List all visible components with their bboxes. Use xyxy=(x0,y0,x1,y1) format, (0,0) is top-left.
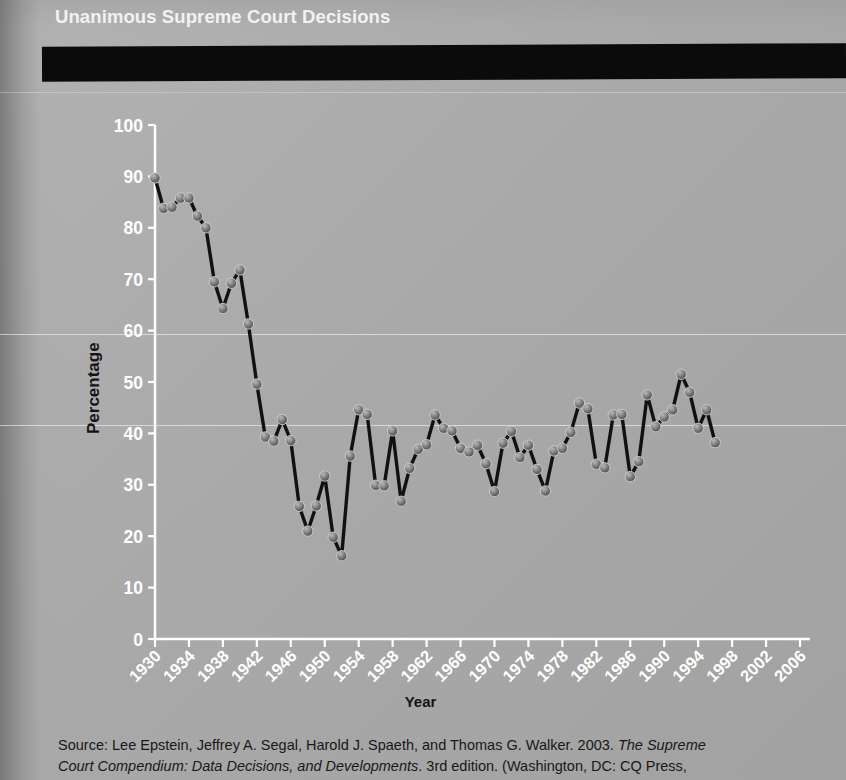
data-point-marker xyxy=(481,459,491,469)
x-axis-tick-label: 1994 xyxy=(669,646,708,685)
y-axis-tick-label: 40 xyxy=(124,424,144,444)
y-axis-title: Percentage xyxy=(84,342,104,434)
data-point-marker xyxy=(252,379,262,389)
y-axis-tick-label: 10 xyxy=(124,578,144,598)
x-axis-tick-label: 1966 xyxy=(431,646,470,685)
source-line1-italic: The Supreme xyxy=(618,737,706,753)
x-axis-tick-label: 1986 xyxy=(601,646,640,685)
data-point-marker xyxy=(506,426,516,436)
x-axis-tick-label: 1970 xyxy=(465,646,504,685)
source-line2-plain: . 3rd edition. (Washington, DC: CQ Press… xyxy=(418,758,687,774)
x-axis-tick-label: 1934 xyxy=(159,646,198,685)
data-point-marker xyxy=(328,532,338,542)
data-point-marker xyxy=(379,481,389,491)
data-point-marker xyxy=(167,202,177,212)
data-point-marker xyxy=(235,265,245,275)
data-point-marker xyxy=(523,440,533,450)
data-point-marker xyxy=(651,422,661,432)
x-axis-tick-label: 1938 xyxy=(193,646,232,685)
x-axis-tick-label: 1954 xyxy=(329,646,368,685)
data-point-marker xyxy=(387,426,397,436)
source-line1-plain: Source: Lee Epstein, Jeffrey A. Segal, H… xyxy=(58,737,618,753)
x-axis-tick-label: 1950 xyxy=(295,646,334,685)
x-axis-tick-label: 1982 xyxy=(567,646,606,685)
data-point-marker xyxy=(184,193,194,203)
y-axis-tick-label: 70 xyxy=(124,270,144,290)
data-point-marker xyxy=(498,438,508,448)
x-axis-title-text: Year xyxy=(405,693,437,710)
x-axis-tick-label: 1942 xyxy=(227,646,266,685)
data-point-marker xyxy=(566,427,576,437)
data-point-marker xyxy=(192,211,202,221)
data-point-marker xyxy=(320,471,330,481)
x-axis-tick-label: 2006 xyxy=(770,646,809,685)
y-axis-tick-label: 0 xyxy=(133,630,143,650)
data-point-marker xyxy=(710,437,720,447)
source-caption: Source: Lee Epstein, Jeffrey A. Segal, H… xyxy=(58,735,818,777)
source-line2-italic: Court Compendium: Data Decisions, and De… xyxy=(58,758,418,774)
x-axis-tick-label: 1978 xyxy=(533,646,572,685)
data-point-marker xyxy=(676,369,686,379)
data-point-marker xyxy=(642,390,652,400)
data-point-marker xyxy=(489,486,499,496)
y-axis-tick-label: 20 xyxy=(124,527,144,547)
chart-figure: 0102030405060708090100193019341938194219… xyxy=(0,0,846,780)
data-point-marker xyxy=(659,412,669,422)
data-point-marker xyxy=(345,451,355,461)
x-axis-tick-label: 1962 xyxy=(397,646,436,685)
y-axis-tick-label: 80 xyxy=(124,218,144,238)
y-axis-tick-label: 90 xyxy=(124,167,144,187)
data-point-marker xyxy=(540,486,550,496)
data-point-marker xyxy=(634,456,644,466)
y-axis-tick-label: 100 xyxy=(114,116,143,136)
data-point-marker xyxy=(226,278,236,288)
data-point-marker xyxy=(515,452,525,462)
x-axis-title: Year xyxy=(0,693,846,710)
data-point-marker xyxy=(464,447,474,457)
data-point-marker xyxy=(286,435,296,445)
line-chart-svg: 0102030405060708090100193019341938194219… xyxy=(0,0,846,780)
x-axis-tick-label: 1946 xyxy=(261,646,300,685)
data-point-marker xyxy=(209,277,219,287)
data-point-marker xyxy=(218,303,228,313)
data-point-marker xyxy=(421,440,431,450)
data-point-marker xyxy=(294,501,304,511)
data-point-marker xyxy=(243,319,253,329)
data-point-marker xyxy=(532,464,542,474)
data-point-marker xyxy=(269,436,279,446)
data-point-marker xyxy=(684,387,694,397)
x-axis-tick-label: 1998 xyxy=(703,646,742,685)
data-point-marker xyxy=(430,410,440,420)
x-axis-tick-label: 1958 xyxy=(363,646,402,685)
data-point-marker xyxy=(668,405,678,415)
data-point-marker xyxy=(557,443,567,453)
data-point-marker xyxy=(311,501,321,511)
data-point-marker xyxy=(303,526,313,536)
x-axis-tick-label: 1990 xyxy=(635,646,674,685)
data-point-marker xyxy=(693,423,703,433)
data-point-marker xyxy=(617,409,627,419)
data-point-marker xyxy=(701,405,711,415)
y-axis-tick-label: 60 xyxy=(124,321,144,341)
data-point-marker xyxy=(600,463,610,473)
data-point-marker xyxy=(337,551,347,561)
data-point-marker xyxy=(396,496,406,506)
data-point-marker xyxy=(447,426,457,436)
data-point-marker xyxy=(472,440,482,450)
data-point-marker xyxy=(625,471,635,481)
data-point-marker xyxy=(150,173,160,183)
y-axis-tick-label: 30 xyxy=(124,475,144,495)
x-axis-tick-label: 1974 xyxy=(499,646,538,685)
data-point-marker xyxy=(201,223,211,233)
data-point-marker xyxy=(277,414,287,424)
data-point-marker xyxy=(404,463,414,473)
x-axis-tick-label: 1930 xyxy=(125,646,164,685)
y-axis-tick-label: 50 xyxy=(124,373,144,393)
data-line-series-unanimous xyxy=(155,178,715,556)
data-point-marker xyxy=(362,409,372,419)
x-axis-tick-label: 2002 xyxy=(736,646,775,685)
data-point-marker xyxy=(583,404,593,414)
